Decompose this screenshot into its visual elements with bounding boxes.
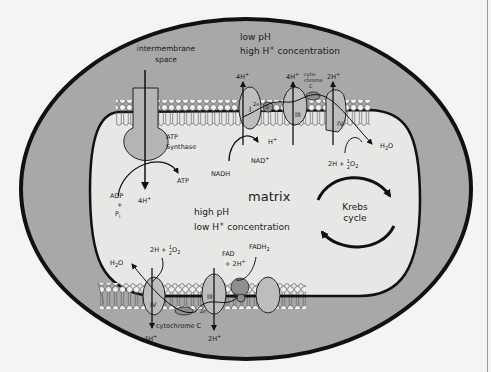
intermembrane-label-2: space [155,55,177,64]
bottom-complex-3-label: III [207,293,213,301]
fad-label: FAD [222,250,235,258]
high-h-concentration-label: high H+ concentration [240,44,340,56]
complex-1-label: I [249,105,251,114]
page-edge-divider [487,0,488,372]
intermembrane-label: intermembrane [137,44,196,53]
atp-synthase-label: ATP [166,133,178,141]
high-ph-label: high pH [194,207,229,217]
matrix-label: matrix [248,189,291,204]
nadh-label: NADH [211,170,230,178]
complex-4-label: IV [337,120,344,128]
bottom-cytochrome-label: cytochrome C [156,322,202,330]
adp-label: ADP [110,192,123,200]
bottom-ubiquinone [237,294,245,302]
atp-synthase-label-2: Synthase [166,143,196,151]
mitochondrion-diagram: ATP Synthase ATP ADP + Pi 4H+ intermembr… [0,0,491,372]
bottom-unlabeled-complex [256,277,280,313]
krebs-label: Krebs [342,202,368,212]
complex-2-label: II [234,292,238,300]
complex-3-label: III [295,111,301,119]
cytochrome-label-2: chrome [304,77,323,83]
krebs-label-2: cycle [343,213,367,223]
ubiquinone-label: Q [265,104,269,110]
low-h-concentration-label: low H+ concentration [194,220,290,232]
bottom-electrons-label: 2e [200,308,206,314]
low-ph-label: low pH [240,32,271,42]
electrons-label: 2e [253,101,259,107]
cytochrome-label-3: C [309,83,313,89]
complex-3 [283,87,307,125]
atp-output-label: ATP [177,177,189,185]
bottom-cytochrome-c [175,307,193,315]
bottom-complex-4-label: IV [150,301,157,309]
bottom-complex-4 [143,277,165,315]
plus-label: + [117,201,122,209]
